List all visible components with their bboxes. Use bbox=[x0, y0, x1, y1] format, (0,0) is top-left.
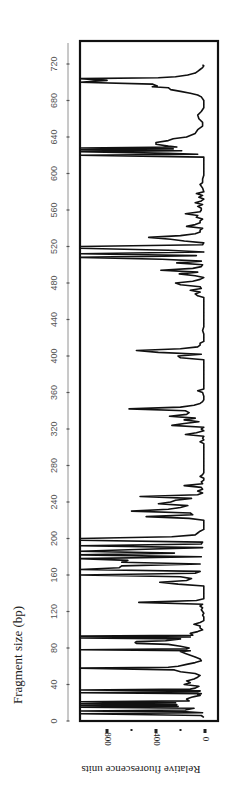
x-tick-label: 280 bbox=[49, 458, 59, 473]
data-point bbox=[173, 138, 174, 139]
data-point bbox=[203, 469, 204, 470]
data-point bbox=[80, 701, 81, 702]
data-point bbox=[186, 414, 187, 415]
data-point bbox=[175, 702, 176, 703]
data-point bbox=[197, 494, 198, 495]
data-point bbox=[203, 593, 204, 594]
data-point bbox=[127, 560, 128, 561]
data-point bbox=[202, 547, 203, 548]
data-point bbox=[80, 638, 81, 639]
data-point bbox=[189, 701, 190, 702]
data-point bbox=[136, 643, 137, 644]
data-point bbox=[197, 295, 198, 296]
data-point bbox=[202, 195, 203, 196]
data-point bbox=[203, 319, 204, 320]
data-point bbox=[201, 210, 202, 211]
data-point bbox=[180, 235, 181, 236]
data-point bbox=[203, 107, 204, 108]
data-point bbox=[194, 405, 195, 406]
data-point bbox=[121, 565, 122, 566]
x-axis-title: Fragment size (bp) bbox=[10, 606, 25, 704]
data-point bbox=[196, 193, 197, 194]
data-point bbox=[202, 604, 203, 605]
x-tick-label: 320 bbox=[49, 421, 59, 436]
data-point bbox=[203, 717, 204, 718]
data-point bbox=[198, 197, 199, 198]
data-point bbox=[203, 337, 204, 338]
data-point bbox=[203, 65, 204, 66]
data-point bbox=[201, 261, 202, 262]
data-point bbox=[203, 617, 204, 618]
data-point bbox=[200, 232, 201, 233]
data-point bbox=[202, 126, 203, 127]
data-point bbox=[202, 67, 203, 68]
data-point bbox=[190, 655, 191, 656]
data-point bbox=[186, 649, 187, 650]
data-point bbox=[179, 273, 180, 274]
data-point bbox=[203, 297, 204, 298]
x-tick-label: 640 bbox=[49, 129, 59, 144]
data-point bbox=[80, 692, 81, 693]
data-point bbox=[156, 144, 157, 145]
data-point bbox=[203, 618, 204, 619]
data-point bbox=[140, 496, 141, 497]
data-point bbox=[195, 688, 196, 689]
data-point bbox=[203, 164, 204, 165]
data-point bbox=[203, 520, 204, 521]
data-point bbox=[203, 171, 204, 172]
data-point bbox=[203, 242, 204, 243]
data-point bbox=[80, 545, 81, 546]
data-point bbox=[203, 447, 204, 448]
data-point bbox=[168, 644, 169, 645]
data-point bbox=[180, 638, 181, 639]
data-point bbox=[201, 200, 202, 201]
data-point bbox=[158, 77, 159, 78]
data-point bbox=[203, 363, 204, 364]
data-point bbox=[187, 505, 188, 506]
data-point bbox=[201, 429, 202, 430]
data-point bbox=[203, 529, 204, 530]
data-point bbox=[203, 480, 204, 481]
data-point bbox=[184, 485, 185, 486]
data-point bbox=[200, 343, 201, 344]
data-point bbox=[203, 175, 204, 176]
plot-frame bbox=[80, 41, 218, 721]
data-point bbox=[197, 115, 198, 116]
data-point bbox=[175, 500, 176, 501]
data-point bbox=[203, 597, 204, 598]
data-point bbox=[176, 147, 177, 148]
data-point bbox=[202, 611, 203, 612]
data-point bbox=[203, 199, 204, 200]
data-point bbox=[185, 653, 186, 654]
data-point bbox=[201, 660, 202, 661]
data-point bbox=[161, 270, 162, 271]
data-point bbox=[202, 122, 203, 123]
data-point bbox=[203, 378, 204, 379]
data-point bbox=[197, 215, 198, 216]
x-tick-label: 720 bbox=[49, 56, 59, 71]
data-point bbox=[195, 133, 196, 134]
electropherogram-chart: 0408012016020024028032036040044048052056… bbox=[0, 0, 247, 791]
data-point bbox=[203, 191, 204, 192]
x-tick-label: 240 bbox=[49, 494, 59, 509]
data-point bbox=[180, 407, 181, 408]
data-point bbox=[136, 549, 137, 550]
x-tick-label: 400 bbox=[49, 348, 59, 363]
data-point bbox=[148, 237, 149, 238]
data-point bbox=[200, 675, 201, 676]
data-point bbox=[80, 149, 81, 150]
data-point bbox=[203, 461, 204, 462]
data-point bbox=[203, 312, 204, 313]
x-tick-label: 0 bbox=[49, 718, 59, 723]
data-point bbox=[200, 222, 201, 223]
data-point bbox=[80, 575, 81, 576]
y-tick bbox=[180, 729, 182, 731]
data-point bbox=[202, 392, 203, 393]
x-tick-label: 680 bbox=[49, 93, 59, 108]
data-point bbox=[203, 374, 204, 375]
y-axis-title: Relative fluorescence units bbox=[81, 764, 200, 776]
x-tick-label: 600 bbox=[49, 166, 59, 181]
data-point bbox=[198, 421, 199, 422]
data-point bbox=[146, 516, 147, 517]
data-point bbox=[189, 518, 190, 519]
